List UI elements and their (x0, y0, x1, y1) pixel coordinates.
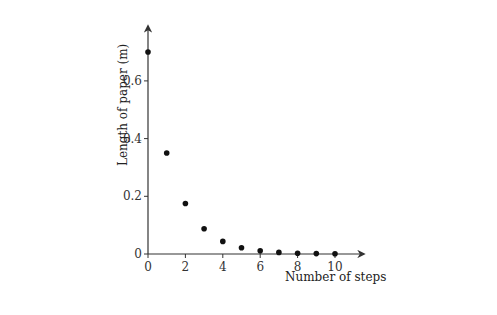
x-axis-label: Number of steps (285, 270, 386, 284)
data-point (276, 250, 282, 256)
scatter-chart: 00.20.40.6 0246810 Number of steps Lengt… (0, 0, 497, 315)
x-tick-label: 0 (144, 260, 152, 274)
data-point (314, 251, 320, 257)
x-tick-label: 4 (219, 260, 227, 274)
data-point (332, 251, 338, 257)
data-points (145, 49, 338, 256)
y-tick-label: 0.2 (123, 189, 142, 203)
data-point (257, 248, 263, 254)
data-point (164, 150, 170, 156)
data-point (201, 226, 207, 232)
data-point (295, 250, 301, 256)
data-point (239, 245, 245, 251)
data-point (220, 239, 226, 245)
data-point (183, 201, 189, 207)
y-tick-label: 0 (134, 247, 142, 261)
x-tick-label: 2 (182, 260, 190, 274)
data-point (145, 49, 151, 55)
x-tick-label: 6 (256, 260, 264, 274)
y-axis-label: Length of paper (m) (116, 44, 130, 166)
